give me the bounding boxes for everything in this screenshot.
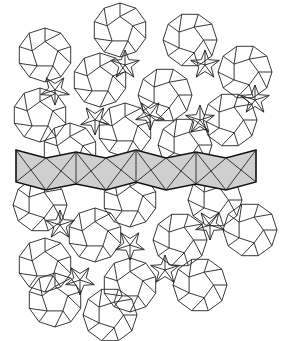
tile-edge bbox=[104, 192, 117, 196]
tile-edge bbox=[143, 281, 156, 294]
tile-edge bbox=[14, 107, 27, 111]
tile-edge bbox=[74, 72, 87, 76]
tile-edge bbox=[19, 47, 32, 51]
tile-edge bbox=[194, 14, 198, 27]
inner-pentagon bbox=[117, 272, 143, 296]
tile-edge bbox=[169, 69, 173, 82]
tile-edge bbox=[108, 227, 121, 231]
tile-edge bbox=[79, 246, 87, 257]
tile-edge bbox=[70, 128, 86, 136]
tile-edge bbox=[168, 24, 179, 32]
tile-edge bbox=[189, 259, 192, 277]
tile-edge bbox=[88, 299, 99, 307]
tile-edge bbox=[172, 253, 185, 266]
tile-edge bbox=[249, 56, 267, 59]
tile-edge bbox=[133, 22, 146, 26]
tile-edge bbox=[29, 292, 42, 296]
tile-edge bbox=[219, 213, 223, 226]
inner-pentagon bbox=[99, 302, 123, 328]
tiling-svg bbox=[0, 0, 282, 341]
inner-pentagon bbox=[107, 17, 133, 41]
tile-edge bbox=[104, 277, 117, 281]
tile-edge bbox=[179, 14, 182, 32]
tile-edge bbox=[222, 133, 235, 146]
tile-edge bbox=[29, 308, 47, 311]
tile-edge bbox=[223, 80, 234, 88]
tile-edge bbox=[249, 46, 253, 59]
tile-edge bbox=[138, 122, 151, 126]
tile-edge bbox=[254, 243, 258, 256]
tile-edge bbox=[69, 227, 82, 231]
tile-edge bbox=[18, 189, 29, 197]
inner-pentagon bbox=[189, 272, 213, 298]
tile-edge bbox=[169, 108, 173, 121]
tile-edge bbox=[158, 248, 169, 256]
tile-edge bbox=[99, 138, 117, 141]
tile-edge bbox=[124, 315, 132, 331]
tile-edge bbox=[104, 293, 122, 296]
tile-edge bbox=[264, 230, 272, 246]
tile-edge bbox=[95, 213, 111, 221]
tile-edge bbox=[208, 104, 219, 112]
tile-edge bbox=[143, 192, 156, 196]
tile-edge bbox=[99, 289, 102, 307]
tile-edge bbox=[234, 133, 238, 146]
tile-edge bbox=[234, 104, 252, 107]
tile-edge bbox=[223, 56, 234, 64]
tile-edge bbox=[109, 108, 112, 126]
tile-edge bbox=[179, 95, 187, 111]
tile-edge bbox=[143, 79, 154, 87]
tile-edge bbox=[53, 66, 61, 77]
tile-edge bbox=[234, 46, 237, 64]
tile-edge bbox=[54, 205, 62, 221]
tile-edge bbox=[169, 79, 187, 82]
tile-edge bbox=[108, 91, 116, 102]
tile-edge bbox=[58, 47, 71, 51]
tile-edge bbox=[169, 214, 172, 232]
inner-pentagon bbox=[117, 187, 143, 211]
tile-edge bbox=[19, 273, 37, 276]
tile-edge bbox=[114, 263, 117, 281]
tile-edge bbox=[45, 33, 61, 41]
tile-edge bbox=[45, 243, 61, 251]
tile-edge bbox=[194, 240, 202, 256]
tile-edge bbox=[242, 243, 255, 256]
inner-pentagon bbox=[82, 222, 108, 246]
tile-edge bbox=[104, 41, 112, 52]
tile-edge bbox=[214, 285, 222, 301]
tile-edge bbox=[228, 238, 239, 246]
tile-edge bbox=[88, 323, 99, 331]
tile-edge bbox=[83, 142, 96, 146]
tile-edge bbox=[192, 298, 205, 311]
tile-edge bbox=[19, 257, 32, 261]
tile-edge bbox=[94, 22, 107, 26]
inner-pentagon bbox=[112, 117, 138, 141]
tile-edge bbox=[104, 208, 122, 211]
tile-edge bbox=[84, 58, 87, 76]
tile-edge bbox=[104, 8, 107, 26]
tile-edge bbox=[138, 296, 146, 307]
tile-edge bbox=[14, 123, 32, 126]
tile-edge bbox=[29, 276, 37, 287]
tile-edge bbox=[138, 211, 146, 222]
highlighted-band bbox=[16, 150, 256, 190]
tile-edge bbox=[39, 311, 47, 322]
tile-edge bbox=[19, 63, 37, 66]
tile-edge bbox=[68, 296, 81, 309]
tile-edge bbox=[109, 141, 117, 152]
tile-edge bbox=[143, 277, 156, 281]
tile-edge bbox=[24, 93, 27, 111]
tile-edge bbox=[204, 259, 208, 272]
tile-edge bbox=[84, 91, 92, 102]
tile-edge bbox=[32, 218, 45, 231]
tile-edge bbox=[44, 142, 57, 146]
tile-edge bbox=[143, 196, 156, 209]
tile-edge bbox=[178, 293, 189, 301]
tile-edge bbox=[63, 311, 71, 322]
tile-edge bbox=[58, 261, 71, 274]
tile-edge bbox=[44, 218, 48, 231]
tile-edge bbox=[120, 8, 136, 16]
inner-pentagon bbox=[27, 102, 53, 126]
tile-edge bbox=[113, 76, 126, 89]
tile-edge bbox=[114, 211, 122, 222]
